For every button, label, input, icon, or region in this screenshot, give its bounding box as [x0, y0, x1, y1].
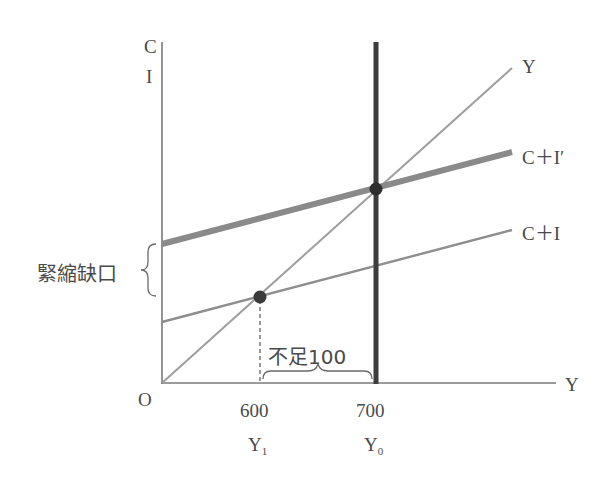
tick-600: 600: [240, 400, 269, 422]
c-plus-i-prime-label: C＋I′: [522, 142, 564, 169]
gap-brace: [141, 244, 156, 296]
y-45-degree-line: [162, 68, 512, 383]
equilibrium-point-y1: [254, 291, 267, 304]
tick-symbol-y1-main: Y: [248, 434, 262, 455]
equilibrium-point-y0: [370, 183, 383, 196]
y-axis-label-c: C: [144, 36, 157, 58]
tick-symbol-y0-sub: 0: [378, 445, 384, 457]
tick-symbol-y0: Y0: [364, 434, 383, 457]
y-axis-label-i: I: [146, 66, 152, 88]
origin-label: O: [138, 389, 152, 411]
diagram-canvas: [0, 0, 612, 490]
tick-symbol-y1: Y1: [248, 434, 267, 457]
c-plus-i-prime-line: [162, 152, 512, 244]
tick-symbol-y1-sub: 1: [262, 445, 268, 457]
c-plus-i-line: [162, 230, 512, 322]
tick-700: 700: [356, 400, 385, 422]
c-plus-i-label: C＋I: [522, 218, 560, 245]
deflationary-gap-label: 緊縮缺口: [37, 258, 117, 287]
x-axis-label: Y: [565, 374, 579, 396]
shortfall-label: 不足100: [268, 341, 346, 370]
y-line-label: Y: [522, 56, 536, 78]
tick-symbol-y0-main: Y: [364, 434, 378, 455]
